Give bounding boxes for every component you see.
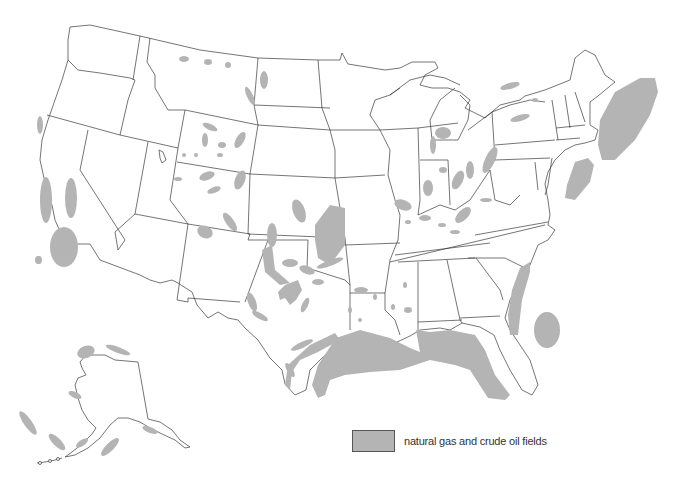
legend-swatch-oil-gas-fields <box>352 430 395 452</box>
us-oil-gas-map <box>0 0 681 485</box>
legend: natural gas and crude oil fields <box>352 429 547 453</box>
legend-label: natural gas and crude oil fields <box>404 435 547 447</box>
